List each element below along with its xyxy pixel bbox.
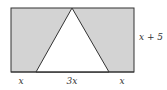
geometry-diagram: x 3x x x + 5 bbox=[0, 0, 167, 90]
label-middle-segment: 3x bbox=[67, 76, 78, 86]
label-left-segment: x bbox=[18, 76, 23, 86]
label-right-segment: x bbox=[119, 76, 124, 86]
label-height: x + 5 bbox=[139, 32, 163, 42]
